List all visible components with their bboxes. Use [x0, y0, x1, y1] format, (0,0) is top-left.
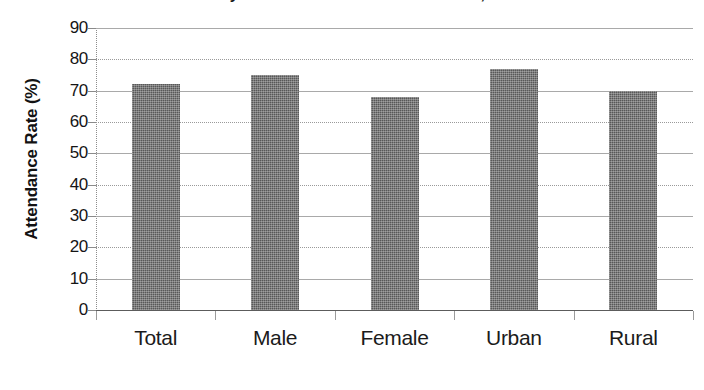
bar: [251, 75, 299, 310]
y-axis-tick-label: 60: [36, 112, 88, 132]
gridline: [96, 91, 693, 92]
x-axis-line: [96, 310, 693, 311]
bar: [490, 69, 538, 310]
gridline: [96, 28, 693, 29]
y-axis-tick-mark: [88, 247, 96, 248]
y-axis-tick-mark: [88, 185, 96, 186]
x-axis-tick-label: Urban: [486, 326, 542, 350]
y-axis-tick-mark: [88, 91, 96, 92]
y-axis-tick-label: 90: [36, 18, 88, 38]
x-axis-tick-mark: [96, 311, 97, 320]
chart-title: Primary School Attendance Rate in India,…: [0, 0, 704, 2]
x-axis-tick-mark: [574, 311, 575, 320]
x-axis-tick-labels: TotalMaleFemaleUrbanRural: [96, 326, 693, 360]
y-axis-tick-mark: [88, 122, 96, 123]
y-axis-tick-mark: [88, 153, 96, 154]
y-axis-tick-mark: [88, 279, 96, 280]
y-axis-tick-mark: [88, 28, 96, 29]
x-axis-tick-label: Rural: [609, 326, 658, 350]
x-axis-tick-mark: [335, 311, 336, 320]
bar-chart: Primary School Attendance Rate in India,…: [0, 0, 704, 390]
y-axis-tick-mark: [88, 216, 96, 217]
y-axis-tick-label: 50: [36, 143, 88, 163]
plot-area: [96, 28, 693, 310]
x-axis-tick-label: Male: [253, 326, 297, 350]
y-axis-tick-label: 70: [36, 81, 88, 101]
y-axis-tick-label: 30: [36, 206, 88, 226]
x-axis-tick-mark: [454, 311, 455, 320]
y-axis-tick-mark: [88, 59, 96, 60]
y-axis-tick-label: 40: [36, 175, 88, 195]
y-axis-tick-label: 0: [36, 300, 88, 320]
bar: [371, 97, 419, 310]
x-axis-tick-mark: [215, 311, 216, 320]
x-axis-tick-mark: [693, 311, 694, 320]
y-axis-tick-label: 80: [36, 49, 88, 69]
x-axis-tick-label: Female: [360, 326, 428, 350]
bar: [132, 84, 180, 310]
y-axis-tick-label: 10: [36, 269, 88, 289]
x-axis-tick-label: Total: [134, 326, 177, 350]
gridline: [96, 59, 693, 60]
bar: [609, 91, 657, 310]
y-axis-tick-labels: 9080706050403020100: [22, 28, 88, 310]
y-axis-tick-mark: [88, 310, 96, 311]
y-axis-tick-label: 20: [36, 237, 88, 257]
